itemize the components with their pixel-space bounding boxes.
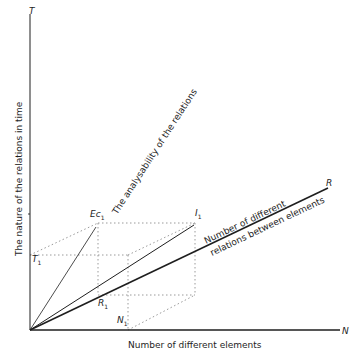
point-label-T1: T1 xyxy=(32,254,42,266)
axis-end-T: T xyxy=(29,6,36,16)
point-label-N1: N1 xyxy=(117,315,128,327)
axis-end-R: R xyxy=(326,178,332,188)
point-label-R1: R1 xyxy=(98,298,108,310)
point-label-I1: I1 xyxy=(195,208,202,220)
diagram: T N R The nature of the relations in tim… xyxy=(0,0,361,361)
steep-vector-label: The analysability of the relations xyxy=(110,87,199,217)
horizontal-axis-label: Number of different elements xyxy=(128,340,262,350)
vector-I1 xyxy=(30,225,194,330)
point-label-Ec1: Ec1 xyxy=(90,209,105,221)
vertical-axis-label: The nature of the relations in time xyxy=(14,101,24,257)
axis-end-N: N xyxy=(342,326,349,336)
axes xyxy=(30,14,340,330)
axis-tick-mark xyxy=(28,213,30,215)
